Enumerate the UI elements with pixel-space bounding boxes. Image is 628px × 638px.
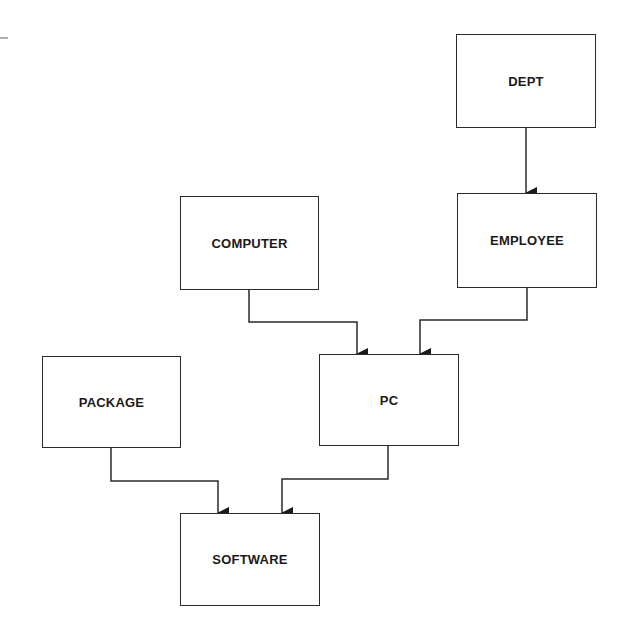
node-label: COMPUTER (212, 236, 288, 251)
edge-employee-pc (420, 288, 527, 354)
node-software: SOFTWARE (180, 513, 320, 606)
edge-pc-software (282, 446, 388, 513)
node-package: PACKAGE (42, 356, 181, 448)
node-pc: PC (319, 354, 459, 446)
node-dept: DEPT (456, 34, 596, 128)
node-label: SOFTWARE (212, 552, 287, 567)
edge-computer-pc (249, 290, 357, 354)
node-label: EMPLOYEE (490, 233, 564, 248)
node-label: DEPT (508, 74, 543, 89)
edge-package-software (111, 448, 218, 513)
node-label: PC (380, 393, 398, 408)
node-label: PACKAGE (79, 395, 144, 410)
node-computer: COMPUTER (180, 196, 319, 290)
diagram-canvas: DEPT EMPLOYEE COMPUTER PC PACKAGE SOFTWA… (0, 0, 628, 638)
node-employee: EMPLOYEE (457, 193, 597, 288)
